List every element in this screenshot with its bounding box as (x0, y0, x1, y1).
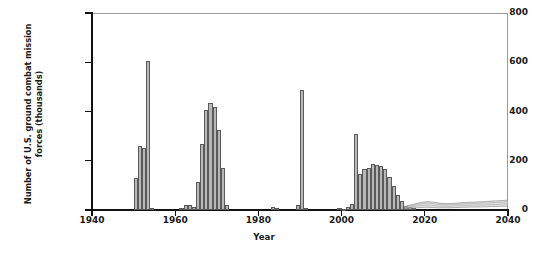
y-axis-title: Number of U.S. ground combat mission for… (23, 14, 45, 214)
bar (225, 205, 229, 210)
bar (304, 208, 308, 210)
y-tick-label: 400 (472, 106, 528, 116)
x-tick-label: 2020 (395, 215, 455, 225)
y-tick-mark (85, 111, 92, 112)
y-tick-label: 200 (472, 155, 528, 165)
y-tick-mark (85, 160, 92, 161)
x-axis-title: Year (0, 232, 528, 242)
x-tick-label: 2040 (478, 215, 533, 225)
y-tick-label: 0 (472, 204, 528, 214)
x-tick-label: 1940 (62, 215, 122, 225)
y-tick-label: 800 (472, 7, 528, 17)
bar (146, 61, 150, 210)
y-tick-label: 600 (472, 56, 528, 66)
bar (412, 208, 416, 210)
bar (150, 208, 154, 210)
bar (275, 208, 279, 210)
x-tick-label: 1980 (228, 215, 288, 225)
y-tick-mark (85, 12, 92, 13)
x-tick-label: 2000 (312, 215, 372, 225)
bar (300, 90, 304, 210)
y-tick-mark (85, 62, 92, 63)
x-tick-label: 1960 (145, 215, 205, 225)
